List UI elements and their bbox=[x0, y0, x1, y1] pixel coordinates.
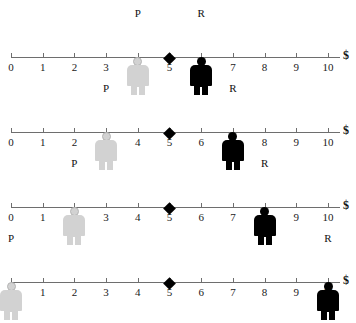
person-label-p: P bbox=[95, 82, 117, 94]
axis-tick bbox=[11, 53, 12, 57]
axis-tick-label: 10 bbox=[316, 136, 340, 149]
axis-tick bbox=[328, 53, 329, 57]
person-label-p: P bbox=[127, 7, 149, 19]
axis-tick bbox=[43, 128, 44, 132]
axis-tick bbox=[201, 128, 202, 132]
axis-tick-label: 8 bbox=[253, 286, 277, 299]
axis-tick bbox=[138, 203, 139, 207]
person-body-icon bbox=[317, 290, 339, 311]
axis-tick bbox=[265, 128, 266, 132]
person-label-r: R bbox=[222, 82, 244, 94]
axis-tick-label: 1 bbox=[31, 286, 55, 299]
axis-tick-label: 6 bbox=[189, 211, 213, 224]
person-label-r: R bbox=[317, 232, 339, 244]
person-label-r: R bbox=[190, 7, 212, 19]
axis-tick-label: 2 bbox=[62, 286, 86, 299]
axis-tick-label: 10 bbox=[316, 61, 340, 74]
person-label-p: P bbox=[63, 157, 85, 169]
axis-tick bbox=[296, 128, 297, 132]
axis-tick-label: 7 bbox=[221, 286, 245, 299]
axis-tick-label: 1 bbox=[31, 136, 55, 149]
axis-tick bbox=[138, 128, 139, 132]
axis-tick bbox=[74, 53, 75, 57]
axis-tick-label: 9 bbox=[284, 136, 308, 149]
axis-tick bbox=[328, 128, 329, 132]
axis-tick bbox=[265, 53, 266, 57]
axis-tick-label: 0 bbox=[0, 136, 23, 149]
currency-axis-label: $ bbox=[343, 124, 349, 137]
axis-tick-label: 3 bbox=[94, 286, 118, 299]
axis-tick bbox=[43, 53, 44, 57]
axis-tick bbox=[43, 278, 44, 282]
person-label-r: R bbox=[254, 157, 276, 169]
axis-tick bbox=[106, 278, 107, 282]
axis-tick-label: 10 bbox=[316, 211, 340, 224]
axis-tick-label: 3 bbox=[94, 211, 118, 224]
axis-tick bbox=[11, 128, 12, 132]
axis-tick-label: 8 bbox=[253, 136, 277, 149]
figure-caption bbox=[3, 313, 353, 323]
number-line-row: 012345678910$PR bbox=[0, 150, 356, 225]
axis-tick bbox=[296, 203, 297, 207]
number-line-row: 012345678910$PR bbox=[0, 75, 356, 150]
axis-tick-label: 7 bbox=[221, 211, 245, 224]
axis-tick bbox=[296, 53, 297, 57]
number-line-row: 012345678910$PR bbox=[0, 225, 356, 300]
axis-tick bbox=[106, 53, 107, 57]
axis-tick-label: 9 bbox=[284, 61, 308, 74]
axis-tick bbox=[74, 278, 75, 282]
axis-tick-label: 4 bbox=[126, 286, 150, 299]
axis-tick-label: 2 bbox=[62, 61, 86, 74]
axis-tick-label: 6 bbox=[189, 136, 213, 149]
person-body-icon bbox=[0, 290, 22, 311]
currency-axis-label: $ bbox=[343, 274, 349, 287]
axis-tick-label: 1 bbox=[31, 61, 55, 74]
axis-tick bbox=[201, 278, 202, 282]
axis-tick-label: 7 bbox=[221, 61, 245, 74]
number-line-row: 012345678910$PR bbox=[0, 0, 356, 75]
person-label-p: P bbox=[0, 232, 22, 244]
axis-tick bbox=[233, 278, 234, 282]
axis-tick-label: 4 bbox=[126, 136, 150, 149]
axis-tick-label: 3 bbox=[94, 61, 118, 74]
axis-tick bbox=[233, 53, 234, 57]
axis-tick-label: 1 bbox=[31, 211, 55, 224]
number-line-figure: 012345678910$PR012345678910$PR0123456789… bbox=[0, 0, 356, 323]
axis-tick bbox=[106, 203, 107, 207]
axis-tick-label: 9 bbox=[284, 211, 308, 224]
axis-tick-label: 8 bbox=[253, 61, 277, 74]
axis-tick-label: 0 bbox=[0, 211, 23, 224]
axis-tick bbox=[328, 203, 329, 207]
axis-tick bbox=[201, 203, 202, 207]
axis-tick bbox=[74, 128, 75, 132]
currency-axis-label: $ bbox=[343, 199, 349, 212]
axis-tick-label: 9 bbox=[284, 286, 308, 299]
axis-tick bbox=[233, 203, 234, 207]
axis-tick bbox=[265, 278, 266, 282]
axis-tick bbox=[138, 278, 139, 282]
axis-tick-label: 0 bbox=[0, 61, 23, 74]
axis-tick-label: 4 bbox=[126, 211, 150, 224]
currency-axis-label: $ bbox=[343, 49, 349, 62]
axis-tick-label: 2 bbox=[62, 136, 86, 149]
axis-tick bbox=[11, 203, 12, 207]
axis-tick bbox=[296, 278, 297, 282]
axis-tick bbox=[43, 203, 44, 207]
axis-tick-label: 6 bbox=[189, 286, 213, 299]
